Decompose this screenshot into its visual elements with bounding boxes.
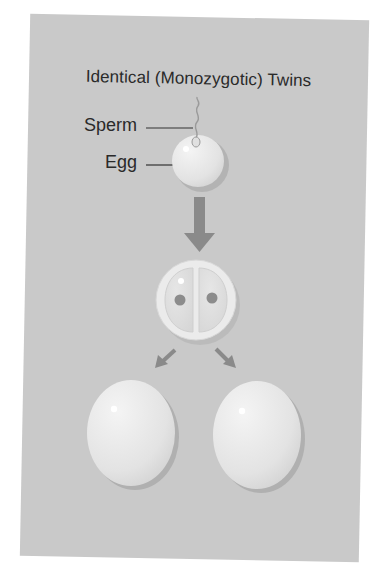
split-arrow-left-icon xyxy=(155,350,175,368)
two-cell-embryo-icon xyxy=(156,260,240,345)
twin-embryo-left-icon xyxy=(87,380,179,490)
down-arrow-icon xyxy=(184,197,215,252)
twin-embryo-right-icon xyxy=(213,381,305,493)
diagram-art xyxy=(0,0,377,578)
egg-label: Egg xyxy=(105,152,137,173)
sperm-icon xyxy=(192,97,200,147)
sperm-label: Sperm xyxy=(84,115,137,136)
egg-cell-icon xyxy=(172,135,229,192)
split-arrow-right-icon xyxy=(216,349,236,368)
